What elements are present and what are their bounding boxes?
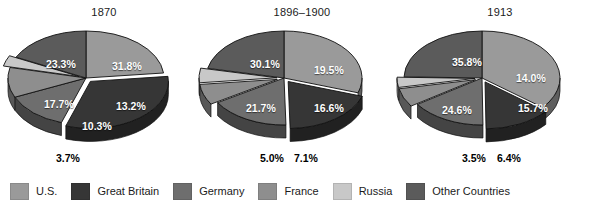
slice-label-inside: 14.0% bbox=[516, 72, 546, 84]
pie-panel-1870: 1870 23.3%31.8%13.2%10.3%17.7%3.7% bbox=[4, 0, 204, 175]
pie-chart-figure: 1870 23.3%31.8%13.2%10.3%17.7%3.7% 1896–… bbox=[0, 0, 605, 210]
legend-row: U.S.Great BritainGermanyFranceRussiaOthe… bbox=[0, 172, 605, 210]
legend-swatch-icon bbox=[333, 183, 352, 200]
legend-item-other-countries[interactable]: Other Countries bbox=[406, 183, 510, 200]
pie-canvas-1896-1900 bbox=[202, 22, 402, 142]
pie-1913 bbox=[400, 22, 600, 142]
legend-label: Great Britain bbox=[97, 185, 159, 197]
pie-1896-1900 bbox=[202, 22, 402, 142]
chart-legend: U.S.Great BritainGermanyFranceRussiaOthe… bbox=[0, 172, 605, 210]
slice-label-inside: 30.1% bbox=[250, 58, 280, 70]
slice-label-inside: 13.2% bbox=[116, 100, 146, 112]
legend-item-france[interactable]: France bbox=[258, 183, 318, 200]
slice-label-inside: 17.7% bbox=[44, 98, 74, 110]
legend-item-great-britain[interactable]: Great Britain bbox=[71, 183, 159, 200]
slice-label-outside: 5.0% bbox=[260, 152, 284, 164]
slice-label-inside: 16.6% bbox=[314, 102, 344, 114]
pie-title-1896-1900: 1896–1900 bbox=[202, 6, 402, 18]
legend-label: Russia bbox=[359, 185, 393, 197]
legend-label: France bbox=[284, 185, 318, 197]
pie-panel-1896-1900: 1896–1900 30.1%19.5%16.6%21.7%5.0%7.1% bbox=[202, 0, 402, 175]
slice-label-inside: 15.7% bbox=[518, 102, 548, 114]
legend-label: Germany bbox=[199, 185, 244, 197]
pie-title-1913: 1913 bbox=[400, 6, 600, 18]
legend-swatch-icon bbox=[71, 183, 90, 200]
pie-canvas-1913 bbox=[400, 22, 600, 142]
pie-slice-other-countries bbox=[404, 31, 482, 78]
legend-swatch-icon bbox=[258, 183, 277, 200]
pie-title-1870: 1870 bbox=[4, 6, 204, 18]
legend-swatch-icon bbox=[173, 183, 192, 200]
slice-label-inside: 31.8% bbox=[112, 60, 142, 72]
slice-label-inside: 19.5% bbox=[314, 64, 344, 76]
legend-label: U.S. bbox=[36, 185, 57, 197]
slice-label-outside: 6.4% bbox=[497, 152, 521, 164]
slice-label-inside: 24.6% bbox=[442, 104, 472, 116]
slice-label-inside: 23.3% bbox=[46, 58, 76, 70]
pie-panel-1913: 1913 35.8%14.0%15.7%24.6%3.5%6.4% bbox=[400, 0, 600, 175]
legend-item-germany[interactable]: Germany bbox=[173, 183, 244, 200]
legend-item-u-s-[interactable]: U.S. bbox=[10, 183, 57, 200]
legend-item-russia[interactable]: Russia bbox=[333, 183, 393, 200]
legend-swatch-icon bbox=[406, 183, 425, 200]
legend-swatch-icon bbox=[10, 183, 29, 200]
slice-label-outside: 7.1% bbox=[294, 152, 318, 164]
legend-label: Other Countries bbox=[432, 185, 510, 197]
slice-label-inside: 21.7% bbox=[246, 102, 276, 114]
slice-label-inside: 35.8% bbox=[452, 56, 482, 68]
slice-label-inside: 10.3% bbox=[82, 120, 112, 132]
slice-label-outside: 3.7% bbox=[56, 152, 80, 164]
slice-label-outside: 3.5% bbox=[462, 152, 486, 164]
